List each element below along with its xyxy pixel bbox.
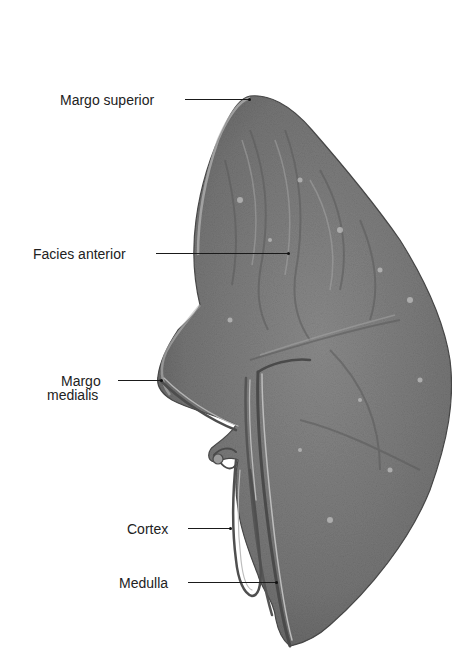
leader-end-margo-superior bbox=[248, 98, 251, 101]
leader-margo-medialis bbox=[118, 380, 161, 381]
leader-end-medulla bbox=[275, 581, 278, 584]
leader-end-cortex bbox=[229, 527, 232, 530]
label-cortex: Cortex bbox=[127, 521, 168, 537]
label-medulla: Medulla bbox=[119, 575, 168, 591]
leader-margo-superior bbox=[185, 99, 249, 100]
label-facies-anterior: Facies anterior bbox=[33, 246, 126, 262]
label-margo-medialis-line2: medialis bbox=[47, 387, 98, 403]
spleen-body bbox=[158, 96, 452, 646]
leader-facies-anterior bbox=[156, 253, 288, 254]
label-margo-superior: Margo superior bbox=[60, 92, 154, 108]
leader-medulla bbox=[188, 582, 276, 583]
leader-end-facies-anterior bbox=[287, 252, 290, 255]
leader-end-margo-medialis bbox=[160, 379, 163, 382]
anatomical-figure: Margo superior Facies anterior Margo med… bbox=[0, 0, 475, 669]
leader-cortex bbox=[188, 528, 230, 529]
